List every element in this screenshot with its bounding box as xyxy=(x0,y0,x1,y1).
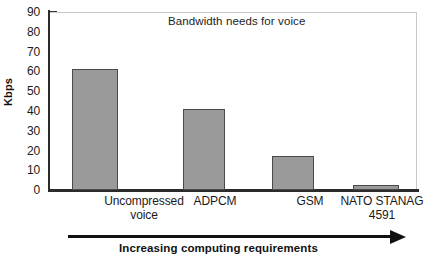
bar-adpcm xyxy=(183,109,225,190)
x-label-nato-stanag-4591: NATO STANAG 4591 xyxy=(322,194,437,222)
x-label-line2: voice xyxy=(44,208,244,222)
y-tick-label-40: 40 xyxy=(27,105,40,117)
y-axis-title: Kbps xyxy=(2,62,14,122)
increasing-requirements-annotation: Increasing computing requirements xyxy=(0,228,437,257)
x-label-line1: NATO STANAG xyxy=(341,194,424,208)
arrow-caption: Increasing computing requirements xyxy=(0,242,437,254)
bars-layer xyxy=(50,12,417,190)
y-tick-label-50: 50 xyxy=(27,85,40,97)
bar-nato-stanag-4591 xyxy=(353,185,399,190)
arrow-line xyxy=(68,235,394,238)
y-tick-label-10: 10 xyxy=(27,164,40,176)
x-label-line1: ADPCM xyxy=(194,194,237,208)
bar-gsm xyxy=(272,156,314,190)
y-tick-label-20: 20 xyxy=(27,145,40,157)
x-label-line1: GSM xyxy=(296,194,323,208)
y-tick-label-30: 30 xyxy=(27,125,40,137)
bandwidth-bar-chart-figure: 90 80 70 60 50 40 30 20 xyxy=(0,0,437,257)
x-axis-labels: Uncompressed voice ADPCM GSM NATO STANAG… xyxy=(50,194,417,228)
x-label-line2: 4591 xyxy=(322,208,437,222)
y-tick-label-80: 80 xyxy=(27,26,40,38)
y-tick-label-0: 0 xyxy=(34,184,40,196)
y-tick-label-70: 70 xyxy=(27,46,40,58)
y-tick-label-60: 60 xyxy=(27,65,40,77)
bar-uncompressed-voice xyxy=(72,69,118,190)
y-tick-label-90: 90 xyxy=(27,6,40,18)
